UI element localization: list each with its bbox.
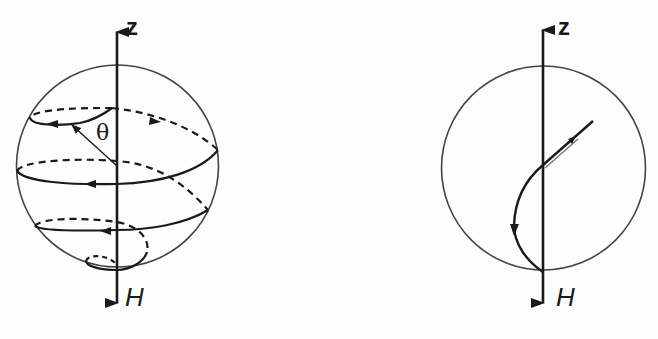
spiral-arrow-icon: [100, 227, 111, 235]
left-h-label: H: [125, 284, 144, 310]
trajectory-curve: [514, 165, 543, 272]
spiral-lower-back-dashed: [35, 219, 148, 252]
left-panel: [17, 32, 219, 303]
spiral-arrow-icon: [46, 120, 58, 128]
trajectory-upper-segment: [543, 121, 593, 165]
right-z-label: z: [558, 15, 570, 39]
spiral-upper-right-dashed: [112, 108, 218, 150]
right-panel: [442, 30, 646, 303]
trajectory-arrow-icon: [510, 224, 519, 236]
spiral-arrow-icon: [84, 180, 96, 188]
right-h-label: H: [556, 284, 575, 310]
trajectory-upper-segment-inner: [545, 139, 578, 168]
theta-label: θ: [96, 122, 109, 144]
left-z-label: z: [126, 15, 138, 39]
figure-canvas: z H θ z H: [0, 0, 658, 339]
